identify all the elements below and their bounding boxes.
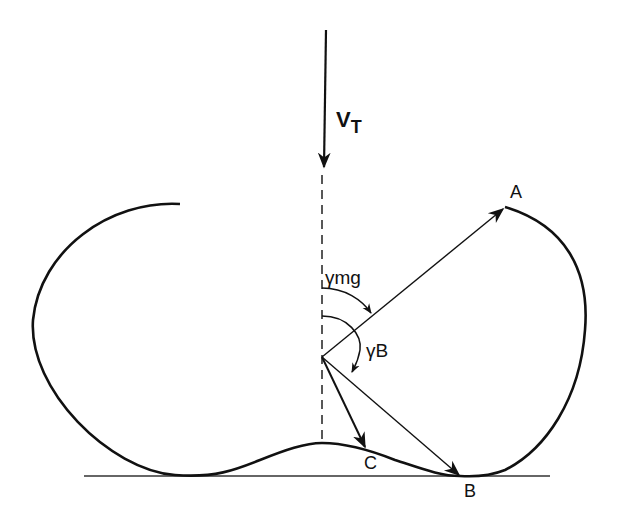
velocity-arrow: [324, 30, 326, 167]
gamma-b-label: γB: [366, 340, 388, 361]
pattern-curve: [33, 204, 586, 477]
velocity-label: VT: [336, 107, 362, 137]
point-a-label: A: [510, 182, 522, 202]
point-c-label: C: [364, 453, 377, 473]
diagram-canvas: VT γmg γB A B C: [0, 0, 636, 532]
angle-arc-gamma-mg: [322, 288, 371, 313]
angle-arc-gamma-b: [322, 316, 360, 372]
gamma-mg-label: γmg: [325, 267, 361, 288]
diagram-svg: VT γmg γB A B C: [0, 0, 636, 532]
point-b-label: B: [464, 481, 476, 501]
vector-to-c: [322, 357, 365, 447]
